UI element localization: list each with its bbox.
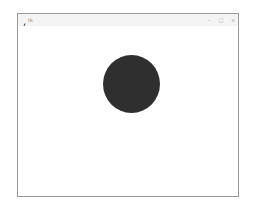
circle-shape [103, 55, 160, 113]
drawing-canvas[interactable] [18, 26, 238, 196]
window-title: tk [28, 14, 33, 26]
window-controls: – □ × [206, 14, 236, 26]
maximize-button[interactable]: □ [218, 14, 224, 26]
close-button[interactable]: × [230, 14, 236, 26]
feather-icon [21, 16, 26, 24]
app-window: tk – □ × [17, 13, 239, 197]
minimize-button[interactable]: – [206, 14, 212, 26]
